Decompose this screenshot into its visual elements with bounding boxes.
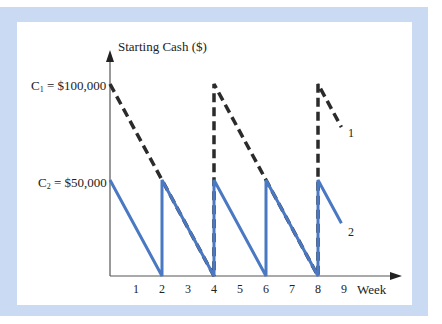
plot-area xyxy=(0,0,442,324)
y-axis-label: Starting Cash ($) xyxy=(118,40,207,53)
series-label-2: 2 xyxy=(348,226,354,238)
y-axis-arrow-icon xyxy=(106,50,114,62)
x-tick-9: 9 xyxy=(341,283,347,295)
series-2-line xyxy=(110,180,341,276)
series-label-1: 1 xyxy=(348,127,354,139)
y-tick-c1: C1 = $100,000 xyxy=(31,79,106,94)
x-tick-6: 6 xyxy=(263,283,269,295)
x-tick-1: 1 xyxy=(133,283,139,295)
x-tick-8: 8 xyxy=(315,283,321,295)
y-tick-c2: C2 = $50,000 xyxy=(38,176,107,191)
x-axis-label: Week xyxy=(357,283,386,296)
x-tick-3: 3 xyxy=(185,283,191,295)
x-axis-arrow-icon xyxy=(390,272,402,280)
x-tick-7: 7 xyxy=(289,283,295,295)
x-tick-4: 4 xyxy=(211,283,217,295)
x-tick-2: 2 xyxy=(159,283,165,295)
x-tick-5: 5 xyxy=(237,283,243,295)
